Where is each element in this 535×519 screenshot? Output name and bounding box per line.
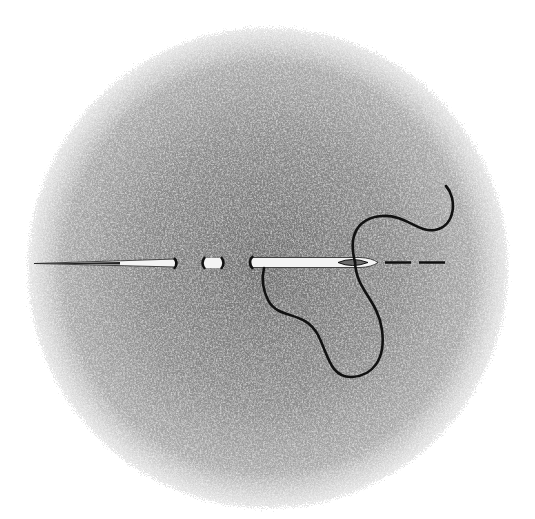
needle-middle-segment [203, 258, 223, 268]
speckle-texture [20, 20, 520, 519]
needle-and-thread-illustration [0, 0, 535, 519]
